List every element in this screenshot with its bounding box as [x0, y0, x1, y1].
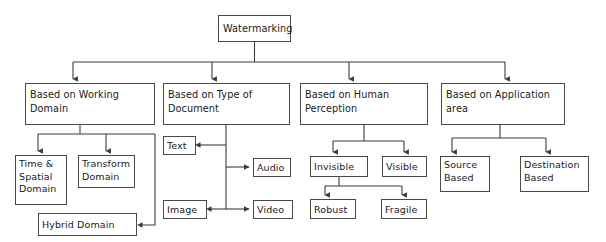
node-video[interactable]: Video [253, 200, 293, 219]
node-transform-domain[interactable]: Transform Domain [78, 155, 135, 188]
node-hybrid-domain[interactable]: Hybrid Domain [38, 213, 137, 236]
node-watermarking[interactable]: Watermarking [218, 15, 291, 42]
node-based-on-application-area[interactable]: Based on Application area [441, 83, 565, 125]
node-fragile[interactable]: Fragile [381, 199, 427, 219]
node-source-based[interactable]: Source Based [440, 156, 490, 192]
edge-to-hybrid-domain [142, 134, 155, 225]
node-robust[interactable]: Robust [310, 199, 356, 219]
node-text[interactable]: Text [163, 136, 196, 155]
node-invisible[interactable]: Invisible [310, 156, 368, 177]
node-audio[interactable]: Audio [253, 158, 291, 177]
node-time-spatial-domain[interactable]: Time & Spatial Domain [15, 155, 67, 205]
node-destination-based[interactable]: Destination Based [520, 156, 589, 192]
node-based-on-type-of-document[interactable]: Based on Type of Document [163, 83, 290, 125]
node-based-on-working-domain[interactable]: Based on Working Domain [25, 83, 155, 125]
watermarking-classification-diagram: Watermarking Based on Working Domain Bas… [0, 0, 606, 242]
node-image[interactable]: Image [163, 200, 207, 219]
node-visible[interactable]: Visible [382, 156, 427, 177]
node-based-on-human-perception[interactable]: Based on Human Perception [300, 83, 428, 125]
